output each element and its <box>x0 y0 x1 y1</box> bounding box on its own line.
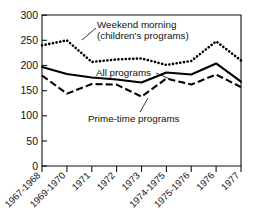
y-tick-group-3: 150 <box>20 84 47 96</box>
x-tick-group-3: 1972 <box>94 166 117 192</box>
x-tick-group-8: 1977 <box>219 166 242 192</box>
annotation-prime-time-programs: Prime-time programs <box>88 98 180 124</box>
leader-line <box>140 98 148 112</box>
y-tick-label: 250 <box>20 34 38 46</box>
annotation-line-1: Weekend morning <box>97 19 176 30</box>
annotation-line-1: Prime-time programs <box>88 113 180 124</box>
y-tick-label: 150 <box>20 84 38 96</box>
x-tick-group-2: 1971 <box>69 166 92 192</box>
x-tick-label: 1977 <box>219 170 242 193</box>
annotation-line-2: (children's programs) <box>97 30 189 41</box>
x-tick-group-7: 1976 <box>194 166 217 192</box>
y-tick-group-2: 100 <box>20 109 47 121</box>
annotation-all-programs: All programs <box>96 67 170 79</box>
y-tick-group-1: 50 <box>26 135 47 147</box>
y-tick-label: 300 <box>20 9 38 21</box>
line-chart: 0 50 100 150 200 250 <box>0 0 257 222</box>
x-axis: 1967-1968 1969-1970 1971 1972 1973 1974-… <box>3 166 242 210</box>
y-tick-label: 200 <box>20 59 38 71</box>
leader-line <box>82 28 96 40</box>
y-tick-group-4: 200 <box>20 59 47 71</box>
x-tick-label: 1972 <box>94 170 117 193</box>
y-tick-group-6: 300 <box>20 9 47 21</box>
annotation-weekend-morning: Weekend morning (children's programs) <box>82 19 189 41</box>
y-axis: 0 50 100 150 200 250 <box>20 9 47 172</box>
y-tick-label: 50 <box>26 135 38 147</box>
chart-canvas: 0 50 100 150 200 250 <box>0 0 257 222</box>
y-tick-group-5: 250 <box>20 34 47 46</box>
series-weekend-morning <box>42 40 241 65</box>
y-tick-label: 0 <box>32 160 38 172</box>
x-tick-label: 1976 <box>194 170 217 193</box>
x-tick-group-4: 1973 <box>119 166 142 192</box>
x-tick-label: 1971 <box>69 170 92 193</box>
annotation-line-1: All programs <box>96 67 151 78</box>
y-tick-label: 100 <box>20 109 38 121</box>
